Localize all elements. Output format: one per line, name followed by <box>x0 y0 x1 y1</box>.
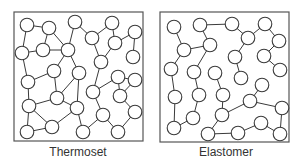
monomer-node <box>164 62 178 76</box>
monomer-node <box>225 17 239 31</box>
monomer-node <box>273 63 287 77</box>
monomer-node <box>275 101 289 115</box>
monomer-node <box>234 71 248 85</box>
monomer-node <box>243 94 257 108</box>
monomer-node <box>273 127 287 141</box>
monomer-node <box>177 43 191 57</box>
monomer-node <box>167 121 181 135</box>
monomer-node <box>201 127 215 141</box>
monomer-node <box>241 31 255 45</box>
elastomer-panel <box>0 0 304 145</box>
monomer-node <box>168 90 182 104</box>
monomer-node <box>203 38 217 52</box>
monomer-node <box>193 18 207 32</box>
monomer-node <box>167 20 181 34</box>
monomer-node <box>192 88 206 102</box>
monomer-node <box>208 66 222 80</box>
monomer-node <box>216 88 230 102</box>
elastomer-network-diagram <box>0 0 304 145</box>
monomer-node <box>272 34 286 48</box>
monomer-node <box>257 49 271 63</box>
elastomer-label: Elastomer <box>150 145 302 159</box>
monomer-node <box>258 17 272 31</box>
monomer-node <box>215 108 229 122</box>
monomer-node <box>187 65 201 79</box>
monomer-node <box>186 111 200 125</box>
monomer-node <box>231 126 245 140</box>
monomer-node <box>254 116 268 130</box>
monomer-node <box>228 50 242 64</box>
monomer-node <box>255 78 269 92</box>
thermoset-label: Thermoset <box>2 145 154 159</box>
